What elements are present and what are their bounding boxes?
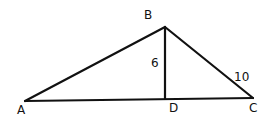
segment-ac (25, 98, 253, 101)
length-label-bd: 6 (151, 56, 159, 70)
vertex-label-a: A (17, 103, 26, 117)
segment-ab (25, 27, 165, 101)
segment-bc (165, 27, 253, 98)
triangle-diagram: B A D C 6 10 (0, 0, 273, 118)
length-label-bc: 10 (234, 70, 249, 84)
vertex-label-b: B (144, 8, 152, 22)
vertex-label-c: C (249, 101, 257, 115)
point-label-d: D (169, 101, 178, 115)
